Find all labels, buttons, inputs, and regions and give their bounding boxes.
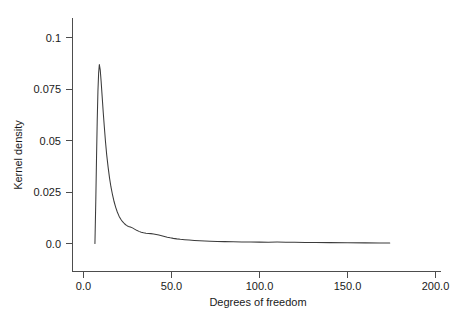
y-tick-label-4: 0.1: [46, 32, 61, 44]
x-tick-label-4: 200.0: [422, 280, 450, 292]
y-axis-tick-labels: 0.0 0.025 0.05 0.075 0.1: [33, 32, 61, 250]
kernel-density-plot: 0.0 0.025 0.05 0.075 0.1 0.0 50.0 100.0 …: [0, 0, 464, 321]
y-tick-label-0: 0.0: [46, 238, 61, 250]
x-axis-ticks: [84, 272, 436, 279]
kernel-density-figure: 0.0 0.025 0.05 0.075 0.1 0.0 50.0 100.0 …: [0, 0, 464, 321]
y-tick-label-2: 0.05: [40, 135, 61, 147]
x-axis-tick-labels: 0.0 50.0 100.0 150.0 200.0: [76, 280, 449, 292]
y-tick-label-3: 0.075: [33, 83, 61, 95]
x-tick-label-0: 0.0: [76, 280, 91, 292]
x-axis-title: Degrees of freedom: [209, 296, 306, 308]
y-axis-title: Kernel density: [12, 120, 24, 190]
x-tick-label-3: 150.0: [334, 280, 362, 292]
density-curve-series-0: [95, 65, 390, 244]
y-tick-label-1: 0.025: [33, 186, 61, 198]
y-axis-ticks: [66, 38, 73, 244]
x-tick-label-2: 100.0: [246, 280, 274, 292]
x-tick-label-1: 50.0: [161, 280, 182, 292]
